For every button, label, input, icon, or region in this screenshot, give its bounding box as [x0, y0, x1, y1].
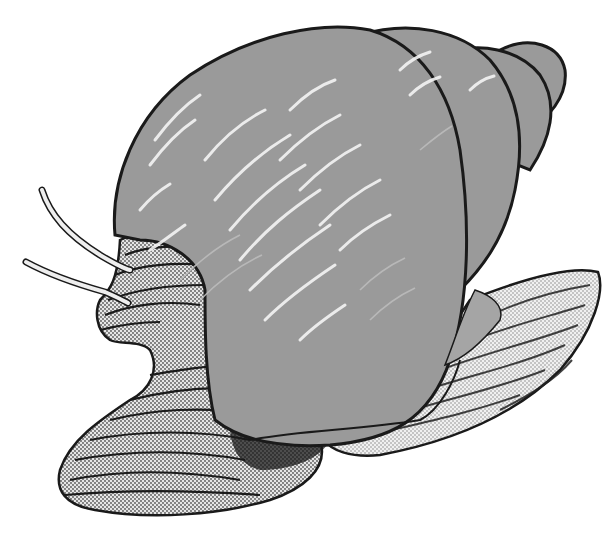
snail-illustration: Snail illustration: [0, 0, 616, 550]
